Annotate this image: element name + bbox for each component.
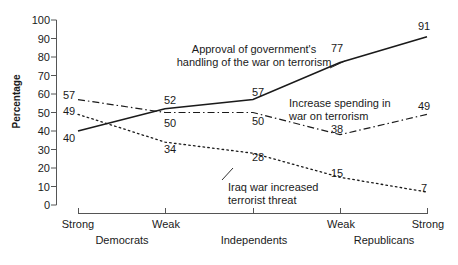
chart-figure: Percentage 100 90 80 70 60 50 40 30 20 1… xyxy=(0,0,458,265)
annotation-approval-line2: handling of the war on terrorism xyxy=(164,56,344,69)
x-tick-label-weak-dem: Weak xyxy=(126,218,206,230)
x-tick-label-weak-rep: Weak xyxy=(301,218,381,230)
iraq-leader-line xyxy=(222,168,233,180)
x-tick-label-strong-rep: Strong xyxy=(388,218,458,230)
data-label-spending-2: 50 xyxy=(252,116,264,127)
data-label-iraq-0: 49 xyxy=(63,106,75,117)
x-axis xyxy=(78,208,428,214)
data-label-iraq-3: 15 xyxy=(331,168,343,179)
x-group-label-democrats: Democrats xyxy=(62,234,182,246)
annotation-spending-line1: Increase spending in xyxy=(289,97,391,110)
data-label-iraq-1: 34 xyxy=(164,144,176,155)
y-axis xyxy=(51,20,57,205)
data-label-spending-1: 50 xyxy=(164,118,176,129)
annotation-spending: Increase spending in war on terrorism xyxy=(289,97,391,123)
data-label-spending-0: 57 xyxy=(63,90,75,101)
annotation-iraq: Iraq war increased terrorist threat xyxy=(228,181,319,207)
x-tick-label-strong-dem: Strong xyxy=(38,218,118,230)
annotation-iraq-line2: terrorist threat xyxy=(228,194,319,207)
annotation-approval-line1: Approval of government's xyxy=(164,43,344,56)
data-label-spending-3: 38 xyxy=(331,124,343,135)
data-label-iraq-2: 28 xyxy=(252,152,264,163)
x-group-label-independents: Independents xyxy=(194,234,314,246)
data-label-iraq-4: 7 xyxy=(421,183,427,194)
data-label-spending-4: 49 xyxy=(418,101,430,112)
data-label-approval-1: 52 xyxy=(164,95,176,106)
data-label-approval-0: 40 xyxy=(63,133,75,144)
data-label-approval-4: 91 xyxy=(418,21,430,32)
x-group-label-republicans: Republicans xyxy=(324,234,444,246)
data-label-approval-2: 57 xyxy=(252,87,264,98)
annotation-approval: Approval of government's handling of the… xyxy=(164,43,344,69)
annotation-iraq-line1: Iraq war increased xyxy=(228,181,319,194)
annotation-spending-line2: war on terrorism xyxy=(289,110,391,123)
